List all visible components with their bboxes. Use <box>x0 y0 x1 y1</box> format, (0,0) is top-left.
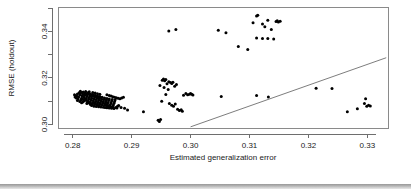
data-point <box>164 78 167 81</box>
data-point <box>76 99 79 102</box>
data-point <box>115 106 118 109</box>
data-point <box>164 93 167 96</box>
data-point <box>108 97 111 100</box>
data-point <box>74 96 77 99</box>
data-point <box>356 107 359 110</box>
data-point <box>163 86 166 89</box>
data-point <box>263 25 266 28</box>
data-point <box>363 102 366 105</box>
data-point <box>369 104 372 107</box>
data-point <box>79 90 82 93</box>
page-bottom-edge <box>0 182 411 189</box>
data-point <box>270 28 273 31</box>
x-tick-label-2: 0.30 <box>183 141 199 150</box>
data-point <box>84 97 87 100</box>
data-point <box>88 90 91 93</box>
plot-svg: 0.300.320.34 0.280.290.300.310.320.33 Es… <box>0 0 411 189</box>
data-point <box>142 110 145 113</box>
data-point <box>272 37 275 40</box>
data-point <box>123 107 126 110</box>
data-point <box>255 94 258 97</box>
data-point <box>122 96 125 99</box>
data-point <box>315 87 318 90</box>
y-tick-label-0: 0.30 <box>40 116 49 132</box>
data-point <box>246 48 249 51</box>
data-point <box>167 29 170 32</box>
data-point <box>99 96 102 99</box>
data-point <box>255 36 258 39</box>
data-point <box>160 100 163 103</box>
data-point <box>174 103 177 106</box>
data-point <box>85 102 88 105</box>
data-point <box>170 82 173 85</box>
data-point <box>267 96 270 99</box>
x-axis-title: Estimated generalization error <box>170 153 277 162</box>
data-point <box>331 87 334 90</box>
y-axis-title: RMSE (holdout) <box>7 39 16 96</box>
data-point <box>174 28 177 31</box>
y-tick-label-4: 0.34 <box>40 23 49 39</box>
x-tick-label-4: 0.32 <box>301 141 317 150</box>
scatter-plot-figure: 0.300.320.34 0.280.290.300.310.320.33 Es… <box>0 0 411 189</box>
data-point <box>220 95 223 98</box>
data-point <box>252 21 255 24</box>
data-point <box>167 88 170 91</box>
data-point <box>117 104 120 107</box>
x-tick-label-5: 0.33 <box>360 141 376 150</box>
data-point <box>217 29 220 32</box>
data-point <box>120 106 123 109</box>
x-tick-label-0: 0.28 <box>65 141 81 150</box>
data-point <box>266 19 269 22</box>
x-tick-label-1: 0.29 <box>124 141 140 150</box>
data-point <box>279 20 282 23</box>
y-tick-label-2: 0.32 <box>40 70 49 86</box>
data-point <box>181 110 184 113</box>
data-point <box>98 93 101 96</box>
data-point <box>159 118 162 121</box>
data-point <box>256 14 259 17</box>
data-point <box>126 109 129 112</box>
data-point <box>84 90 87 93</box>
data-point <box>81 100 84 103</box>
data-point <box>261 37 264 40</box>
data-point <box>261 22 264 25</box>
data-point <box>237 45 240 48</box>
data-point <box>111 106 114 109</box>
x-tick-label-3: 0.31 <box>242 141 258 150</box>
data-point <box>175 83 178 86</box>
data-point <box>111 98 114 101</box>
data-point <box>224 31 227 34</box>
data-point <box>266 37 269 40</box>
data-point <box>364 97 367 100</box>
data-point <box>158 84 161 87</box>
data-point <box>346 110 349 113</box>
data-point <box>191 93 194 96</box>
